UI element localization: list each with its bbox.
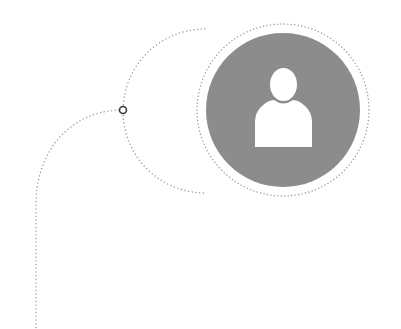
outer-arc-connector xyxy=(123,29,205,193)
connector-diagram xyxy=(0,0,401,329)
connector-node[interactable] xyxy=(120,107,127,114)
left-curve-connector xyxy=(36,110,119,329)
